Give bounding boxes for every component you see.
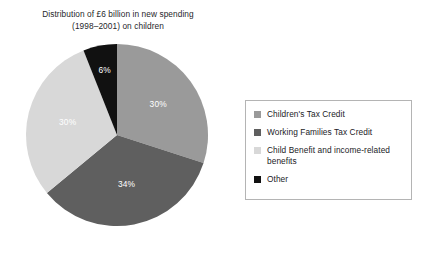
pie-chart-plot-area: 30%34%30%6% bbox=[25, 43, 209, 227]
chart-title-line-2: (1998–2001) on children bbox=[14, 21, 222, 33]
pie-slice-label: 34% bbox=[118, 179, 136, 189]
legend-swatch-icon bbox=[254, 147, 261, 154]
legend-item-label: Other bbox=[267, 174, 288, 185]
legend-item-label: Child Benefit and income-related benefit… bbox=[267, 145, 405, 166]
chart-legend: Children's Tax CreditWorking Families Ta… bbox=[245, 100, 412, 200]
pie-chart-figure: Distribution of £6 billion in new spendi… bbox=[0, 0, 427, 267]
legend-item-label: Children's Tax Credit bbox=[267, 109, 345, 120]
legend-swatch-icon bbox=[254, 129, 261, 136]
pie-slice-label: 30% bbox=[59, 117, 77, 127]
pie-slice-label: 30% bbox=[150, 99, 168, 109]
chart-title: Distribution of £6 billion in new spendi… bbox=[14, 9, 222, 32]
legend-item-label: Working Families Tax Credit bbox=[267, 127, 372, 138]
legend-item[interactable]: Children's Tax Credit bbox=[254, 109, 405, 120]
legend-item[interactable]: Child Benefit and income-related benefit… bbox=[254, 145, 405, 166]
chart-title-line-1: Distribution of £6 billion in new spendi… bbox=[14, 9, 222, 21]
pie-slice-label: 6% bbox=[98, 65, 111, 75]
legend-item[interactable]: Working Families Tax Credit bbox=[254, 127, 405, 138]
legend-swatch-icon bbox=[254, 111, 261, 118]
legend-item[interactable]: Other bbox=[254, 174, 405, 185]
legend-swatch-icon bbox=[254, 176, 261, 183]
pie-chart-svg: 30%34%30%6% bbox=[25, 43, 209, 227]
legend-item-list: Children's Tax CreditWorking Families Ta… bbox=[254, 109, 405, 184]
pie-slice-group bbox=[26, 44, 208, 226]
